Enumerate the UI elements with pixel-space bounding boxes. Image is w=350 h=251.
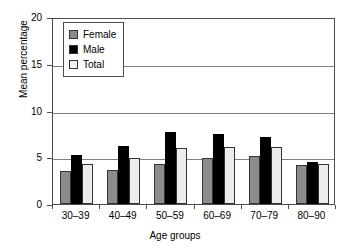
- bar-total-40-49: [129, 158, 140, 204]
- bar-female-30-39: [60, 171, 71, 204]
- y-axis-tick: [47, 65, 52, 66]
- y-axis-tick-label: 20: [10, 13, 42, 23]
- y-axis-tick-label: 10: [10, 107, 42, 117]
- bar-total-70-79: [271, 147, 282, 204]
- bar-male-70-79: [260, 137, 271, 204]
- bar-male-60-69: [213, 134, 224, 204]
- y-axis-tick-label: 0: [10, 200, 42, 210]
- legend-swatch-total-icon: [69, 60, 78, 69]
- legend-item-male: Male: [69, 42, 116, 57]
- y-axis-tick-label: 15: [10, 60, 42, 70]
- bar-female-60-69: [202, 158, 213, 204]
- legend: Female Male Total: [63, 22, 124, 77]
- legend-item-female: Female: [69, 27, 116, 42]
- bar-female-40-49: [107, 170, 118, 204]
- bar-female-50-59: [154, 164, 165, 204]
- x-axis-tick: [99, 205, 100, 209]
- bar-total-50-59: [176, 148, 187, 204]
- bar-male-30-39: [71, 155, 82, 204]
- legend-label-female: Female: [83, 30, 116, 40]
- x-axis-tick: [288, 205, 289, 209]
- bar-female-80-90: [296, 165, 307, 204]
- bar-female-70-79: [249, 156, 260, 204]
- x-axis-tick: [335, 205, 336, 209]
- bar-total-30-39: [82, 164, 93, 204]
- x-axis-tick: [146, 205, 147, 209]
- legend-label-total: Total: [83, 60, 104, 70]
- legend-item-total: Total: [69, 57, 116, 72]
- y-axis-tick: [47, 112, 52, 113]
- bar-total-60-69: [224, 147, 235, 204]
- y-axis-tick-label: 5: [10, 153, 42, 163]
- bar-male-40-49: [118, 146, 129, 204]
- y-axis-tick: [47, 18, 52, 19]
- legend-swatch-male-icon: [69, 45, 78, 54]
- bar-total-80-90: [318, 164, 329, 204]
- x-axis-tick: [52, 205, 53, 209]
- x-axis-tick-label: 80–90: [281, 210, 341, 221]
- bar-male-80-90: [307, 162, 318, 204]
- x-axis-tick: [194, 205, 195, 209]
- bar-chart: Mean percentage Age groups Female Male T…: [0, 0, 350, 251]
- legend-swatch-female-icon: [69, 30, 78, 39]
- bar-male-50-59: [165, 132, 176, 204]
- legend-label-male: Male: [83, 45, 105, 55]
- x-axis-tick: [241, 205, 242, 209]
- y-axis-tick: [47, 158, 52, 159]
- x-axis-title: Age groups: [0, 230, 350, 241]
